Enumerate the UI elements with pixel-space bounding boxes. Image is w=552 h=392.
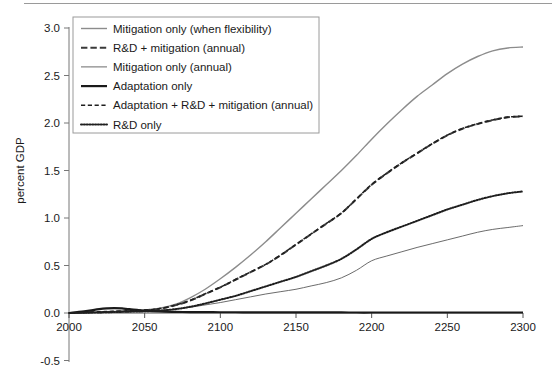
- legend-label-1: R&D + mitigation (annual): [113, 42, 245, 54]
- legend-label-2: Mitigation only (annual): [113, 61, 232, 73]
- series-line-1: [69, 116, 523, 313]
- x-axis-tick-label: 2000: [56, 321, 82, 333]
- x-axis-tick-label: 2250: [435, 321, 461, 333]
- y-axis-title: percent GDP: [14, 137, 26, 204]
- x-axis-tick-label: 2200: [359, 321, 385, 333]
- y-axis-tick-label: 2.5: [44, 70, 60, 82]
- y-axis-tick-label: 3.0: [44, 22, 60, 34]
- y-axis-tick-label: 2.0: [44, 117, 60, 129]
- legend-label-3: Adaptation only: [113, 80, 193, 92]
- x-axis-tick-label: 2050: [132, 321, 158, 333]
- x-axis-tick-label: 2150: [283, 321, 309, 333]
- x-axis-tick-label: 2300: [510, 321, 536, 333]
- chart-legend: Mitigation only (when flexibility)R&D + …: [73, 17, 319, 133]
- series-line-4: [69, 116, 523, 313]
- legend-label-4: Adaptation + R&D + mitigation (annual): [113, 99, 313, 111]
- y-axis-tick-label: 0.5: [44, 260, 60, 272]
- y-axis-tick-label: 0.0: [44, 307, 60, 319]
- series-line-2: [69, 226, 523, 313]
- series-line-5: [69, 191, 523, 313]
- legend-label-5: R&D only: [113, 119, 162, 131]
- line-chart: -0.50.00.51.01.52.02.53.0200020502100215…: [0, 0, 552, 392]
- legend-label-0: Mitigation only (when flexibility): [113, 23, 272, 35]
- x-axis-tick-label: 2100: [208, 321, 234, 333]
- y-axis-tick-label: -0.5: [40, 355, 60, 367]
- y-axis-tick-label: 1.0: [44, 212, 60, 224]
- y-axis-tick-label: 1.5: [44, 165, 60, 177]
- figure-container: -0.50.00.51.01.52.02.53.0200020502100215…: [0, 0, 552, 392]
